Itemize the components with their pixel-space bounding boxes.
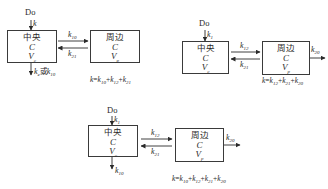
peripheral-name: 周边 [91, 33, 139, 42]
backward-rate-label: k21 [240, 61, 249, 70]
peripheral-elim-label: k20 [311, 46, 320, 55]
rate-formula: k=k12+k21+k20 [262, 77, 303, 86]
backward-rate-label: k21 [151, 148, 160, 157]
peripheral-compartment: 周边 C Vp [262, 41, 310, 75]
dose-label: Do [199, 19, 209, 28]
central-name: 中央 [89, 128, 137, 137]
volume-symbol: Vc [183, 63, 228, 74]
central-name: 中央 [183, 44, 228, 53]
forward-rate-label: k10 [68, 31, 77, 40]
volume-symbol: Vc [8, 52, 56, 63]
peripheral-name: 周边 [176, 131, 223, 140]
backward-rate-label: k21 [68, 50, 77, 59]
central-compartment: 中央 C Vc [7, 30, 57, 63]
input-rate-label: k1 [207, 31, 213, 40]
volume-symbol: Vp [176, 150, 223, 161]
peripheral-compartment: 周边 C Vp [175, 128, 224, 162]
input-rate-label: k [33, 20, 37, 28]
forward-rate-label: k12 [240, 42, 249, 51]
arrows-layer [0, 0, 328, 189]
central-compartment: 中央 C Vc [182, 41, 229, 74]
forward-rate-label: k12 [151, 129, 160, 138]
peripheral-name: 周边 [263, 44, 309, 53]
rate-formula: k=k10+k12+k21 [90, 76, 131, 85]
central-name: 中央 [8, 33, 56, 42]
peripheral-compartment: 周边 C Vp [90, 30, 140, 63]
volume-symbol: Vp [263, 63, 309, 74]
dose-label: Do [107, 106, 117, 115]
volume-symbol: Vp [91, 52, 139, 63]
volume-symbol: Vc [89, 147, 137, 158]
rate-formula: k=k10+k12+k21+k20 [172, 175, 226, 184]
central-elim-label: k10 [115, 167, 124, 176]
central-compartment: 中央 C Vc [88, 125, 138, 157]
peripheral-elim-label: k20 [226, 134, 235, 143]
elimination-rate-label: ke或k10 [34, 68, 55, 77]
input-rate-label: k1 [114, 116, 120, 125]
dose-label: Do [25, 8, 35, 17]
